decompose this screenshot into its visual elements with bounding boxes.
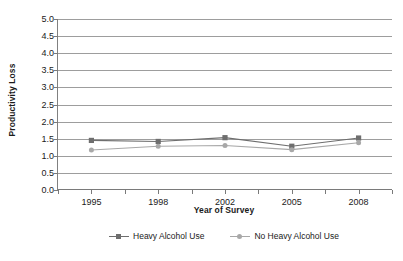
legend-diamond-marker-icon bbox=[237, 234, 242, 239]
x-axis-title-label: Year of Survey bbox=[194, 205, 254, 215]
x-axis-tick bbox=[359, 190, 360, 194]
data-point-marker bbox=[222, 135, 227, 140]
y-axis-title-label: Productivity Loss bbox=[7, 63, 17, 136]
y-axis-tick-label: 5.0 bbox=[24, 15, 54, 24]
data-point-marker bbox=[89, 138, 94, 143]
y-axis-tick-label: 2.5 bbox=[24, 101, 54, 110]
y-axis-tick-label: 3.0 bbox=[24, 83, 54, 92]
y-axis-tick-label: 1.0 bbox=[24, 152, 54, 161]
data-point-marker bbox=[156, 139, 161, 144]
chart-legend: Heavy Alcohol UseNo Heavy Alcohol Use bbox=[57, 232, 391, 241]
y-axis-tick-label: 0.5 bbox=[24, 169, 54, 178]
legend-label: No Heavy Alcohol Use bbox=[254, 232, 339, 241]
y-axis-tick-label: 3.5 bbox=[24, 66, 54, 75]
data-point-marker bbox=[356, 140, 361, 145]
data-point-marker bbox=[356, 135, 361, 140]
x-axis-tick bbox=[392, 190, 393, 194]
legend-swatch bbox=[109, 232, 129, 241]
y-axis-title: Productivity Loss bbox=[0, 0, 24, 200]
data-point-marker bbox=[156, 144, 161, 149]
data-point-marker bbox=[223, 143, 228, 148]
x-axis-tick bbox=[125, 190, 126, 194]
y-axis-tick-label: 0.0 bbox=[24, 186, 54, 195]
y-axis-tick-label: 4.5 bbox=[24, 32, 54, 41]
legend-item[interactable]: No Heavy Alcohol Use bbox=[230, 232, 339, 241]
legend-label: Heavy Alcohol Use bbox=[133, 232, 204, 241]
x-axis-tick bbox=[325, 190, 326, 194]
x-axis-tick bbox=[158, 190, 159, 194]
x-axis-tick bbox=[91, 190, 92, 194]
x-axis-tick bbox=[192, 190, 193, 194]
series-plot bbox=[58, 19, 392, 190]
y-axis-tick-label: 1.5 bbox=[24, 135, 54, 144]
legend-swatch bbox=[230, 232, 250, 241]
plot-area: 19951998200220052008 bbox=[57, 19, 392, 190]
legend-item[interactable]: Heavy Alcohol Use bbox=[109, 232, 204, 241]
x-axis-tick bbox=[258, 190, 259, 194]
legend-square-marker-icon bbox=[116, 234, 121, 239]
chart-container: Productivity Loss 0.00.51.01.52.02.53.03… bbox=[0, 0, 403, 261]
y-axis-tick-label: 4.0 bbox=[24, 49, 54, 58]
data-point-marker bbox=[89, 147, 94, 152]
x-axis-tick bbox=[58, 190, 59, 194]
y-axis-tick-label: 2.0 bbox=[24, 118, 54, 127]
x-axis-tick bbox=[292, 190, 293, 194]
x-axis-tick bbox=[225, 190, 226, 194]
data-point-marker bbox=[289, 147, 294, 152]
x-axis-title: Year of Survey bbox=[57, 205, 391, 215]
